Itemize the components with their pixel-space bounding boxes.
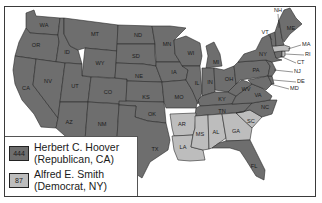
svg-text:PA: PA: [252, 67, 259, 73]
svg-text:NV: NV: [44, 78, 52, 84]
hoover-party: (Republican, CA): [34, 154, 119, 166]
svg-text:RI: RI: [305, 51, 311, 57]
svg-text:CT: CT: [297, 59, 305, 65]
svg-text:TX: TX: [151, 146, 158, 152]
svg-text:WA: WA: [40, 22, 49, 28]
svg-text:MA: MA: [302, 41, 311, 47]
hoover-electoral-votes-swatch: 444: [9, 146, 29, 161]
svg-text:UT: UT: [71, 83, 79, 89]
svg-text:GA: GA: [232, 128, 240, 134]
svg-text:NJ: NJ: [294, 68, 301, 74]
legend-item-hoover: 444 Herbert C. Hoover (Republican, CA): [9, 142, 119, 165]
state-RI: [282, 51, 285, 57]
svg-text:SC: SC: [247, 118, 255, 124]
svg-text:OK: OK: [148, 111, 156, 117]
svg-text:MN: MN: [163, 41, 172, 47]
svg-text:FL: FL: [251, 163, 258, 169]
svg-text:MT: MT: [91, 31, 100, 37]
svg-text:KS: KS: [142, 94, 150, 100]
svg-text:IA: IA: [171, 69, 177, 75]
svg-text:DE: DE: [297, 78, 305, 84]
smith-party: (Democrat, NY): [34, 181, 107, 193]
smith-name: Alfred E. Smith: [34, 169, 107, 181]
svg-text:MI: MI: [213, 59, 220, 65]
svg-text:NE: NE: [135, 73, 143, 79]
smith-electoral-votes-swatch: 87: [9, 173, 29, 188]
svg-text:AL: AL: [213, 129, 220, 135]
svg-text:ND: ND: [134, 32, 142, 38]
svg-text:CO: CO: [104, 89, 113, 95]
svg-text:TN: TN: [218, 108, 225, 114]
legend: 444 Herbert C. Hoover (Republican, CA) 8…: [5, 136, 138, 196]
hoover-name: Herbert C. Hoover: [34, 142, 119, 154]
svg-text:VA: VA: [254, 92, 261, 98]
svg-text:OH: OH: [225, 76, 233, 82]
svg-text:CA: CA: [22, 85, 30, 91]
svg-text:KY: KY: [218, 96, 226, 102]
svg-text:WV: WV: [241, 86, 250, 92]
svg-text:AR: AR: [178, 121, 186, 127]
svg-text:IL: IL: [195, 80, 200, 86]
svg-text:ME: ME: [287, 25, 296, 31]
legend-item-smith: 87 Alfred E. Smith (Democrat, NY): [9, 169, 107, 192]
svg-text:NM: NM: [98, 121, 107, 127]
svg-text:SD: SD: [132, 53, 140, 59]
svg-text:LA: LA: [180, 144, 187, 150]
svg-text:NH: NH: [274, 7, 282, 13]
svg-text:WY: WY: [95, 60, 104, 66]
svg-text:MD: MD: [290, 85, 299, 91]
state-FL: [212, 140, 265, 180]
svg-text:NY: NY: [259, 51, 267, 57]
svg-text:MO: MO: [174, 94, 184, 100]
svg-text:ID: ID: [64, 49, 70, 55]
svg-text:OR: OR: [32, 42, 40, 48]
svg-text:NC: NC: [261, 104, 269, 110]
svg-text:WI: WI: [188, 50, 195, 56]
svg-text:MS: MS: [196, 131, 205, 137]
svg-text:IN: IN: [207, 79, 213, 85]
svg-text:AZ: AZ: [65, 119, 73, 125]
